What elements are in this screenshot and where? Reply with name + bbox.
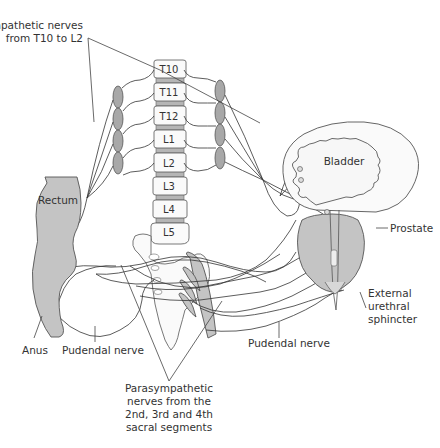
external-sphincter-label-line1: External [368, 287, 412, 299]
external-sphincter-label-line3: sphincter [368, 313, 418, 325]
rectum-label: Rectum [38, 194, 78, 206]
vertebra-label: L5 [163, 227, 175, 238]
vertebra-l5: L5 [151, 223, 189, 244]
external-sphincter-label-line2: urethral [368, 300, 410, 312]
left-sympathetic-nerves [77, 100, 113, 226]
parasympathetic-label-line4: sacral segments [126, 421, 212, 433]
vertebra-label: T10 [159, 64, 179, 75]
innervation-diagram: T10 T11 T12 L1 L2 L3 L4 L5 [0, 0, 440, 448]
rectum: Rectum [32, 177, 81, 337]
pudendal-nerve-label-left: Pudendal nerve [62, 344, 144, 356]
vertebra-l2: L2 [154, 153, 186, 172]
parasympathetic-label-line3: 2nd, 3rd and 4th [125, 408, 213, 420]
vertebra-label: L3 [163, 181, 175, 192]
vertebra-l1: L1 [154, 130, 186, 148]
vertebra-t12: T12 [154, 106, 186, 125]
vertebra-t11: T11 [154, 83, 186, 101]
bladder-label: Bladder [324, 155, 365, 167]
vertebra-label: T12 [159, 111, 179, 122]
bladder-prostate: Bladder Prostate [283, 122, 433, 310]
external-urethral-sphincter-callout: External urethral sphincter [360, 287, 418, 325]
sympathetic-label-line2: from T10 to L2 [6, 32, 83, 44]
pudendal-right-callout: Pudendal nerve [248, 322, 330, 349]
parasympathetic-label-line2: nerves from the [127, 395, 211, 407]
vertebral-column: T10 T11 T12 L1 L2 L3 L4 L5 [151, 60, 189, 244]
pudendal-nerve-label-right: Pudendal nerve [248, 337, 330, 349]
anus-label: Anus [22, 344, 48, 356]
sympathetic-label-line1: Sympathetic nerves [0, 19, 83, 31]
sympathetic-chain-right [215, 80, 225, 169]
vertebra-label: L2 [163, 158, 175, 169]
parasympathetic-label-line1: Parasympathetic [125, 382, 213, 394]
pudendal-left-callout: Pudendal nerve [62, 326, 144, 356]
sympathetic-chain-left [113, 86, 123, 174]
vertebra-label: L4 [163, 204, 175, 215]
vertebra-label: T11 [159, 87, 179, 98]
vertebra-l3: L3 [153, 177, 187, 195]
vertebra-l4: L4 [153, 200, 187, 218]
prostate-label: Prostate [390, 222, 433, 234]
vertebra-label: L1 [163, 134, 175, 145]
